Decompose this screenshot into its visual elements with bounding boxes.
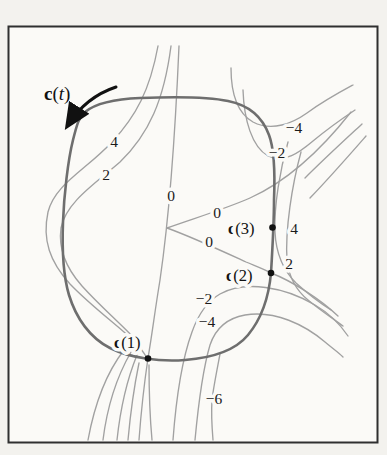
curve-name-bold: c bbox=[44, 83, 52, 104]
point-label-c1-bold: c bbox=[114, 333, 121, 352]
point-label-c3: c(3) bbox=[228, 219, 255, 238]
point-dot-c1 bbox=[145, 355, 152, 362]
contour-label-minus4-top-right: −4 bbox=[286, 119, 303, 136]
point-label-c3-suffix: (3) bbox=[235, 219, 254, 238]
point-label-c2: c(2) bbox=[226, 266, 253, 285]
contour-label-2-left: 2 bbox=[102, 166, 110, 183]
contour-label-4-upper-left: 4 bbox=[110, 133, 118, 150]
point-label-c1: c(1) bbox=[114, 333, 141, 352]
contour-label-4-right: 4 bbox=[290, 220, 298, 237]
contour-label-0-wedge-upper: 0 bbox=[213, 204, 221, 221]
curve-name-label: c(t) bbox=[44, 83, 70, 105]
curve-name-close-paren: ) bbox=[64, 83, 70, 105]
contour-label-0-center: 0 bbox=[167, 187, 175, 204]
point-label-c2-suffix: (2) bbox=[233, 266, 252, 285]
figure-canvas: c(t) 4 2 0 0 0 −4 −2 4 2 −2 −4 −6 c(1) c… bbox=[0, 0, 387, 455]
point-dot-c2 bbox=[268, 270, 275, 277]
contour-label-minus2-top-right: −2 bbox=[269, 144, 286, 161]
point-label-c1-suffix: (1) bbox=[121, 333, 140, 352]
contour-label-minus2-bottom: −2 bbox=[196, 290, 213, 307]
point-dot-c3 bbox=[269, 224, 276, 231]
point-label-c3-bold: c bbox=[228, 219, 235, 238]
contour-label-minus4-bottom: −4 bbox=[199, 313, 216, 330]
contour-label-0-wedge-lower: 0 bbox=[205, 233, 213, 250]
point-label-c2-bold: c bbox=[226, 266, 233, 285]
contour-label-2-right: 2 bbox=[285, 255, 293, 272]
contour-figure: c(t) 4 2 0 0 0 −4 −2 4 2 −2 −4 −6 c(1) c… bbox=[0, 0, 387, 455]
contour-label-minus6-bottom: −6 bbox=[206, 390, 223, 407]
